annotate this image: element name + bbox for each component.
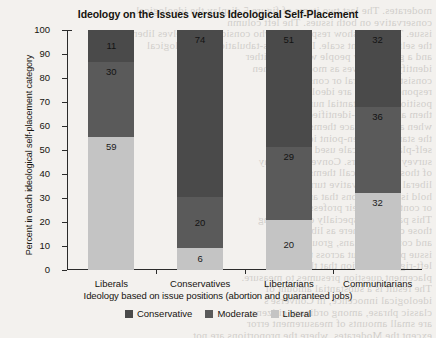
x-axis-category-label: Communitarians — [318, 278, 436, 289]
plot-area: 0102030405060708090100 113059Liberals742… — [67, 30, 422, 270]
y-axis-tick-label: 80 — [16, 72, 50, 83]
legend-swatch-icon — [125, 310, 133, 318]
bar-segment-value: 6 — [197, 254, 202, 264]
y-axis-tick — [62, 174, 67, 175]
legend-label: Conservative — [137, 309, 192, 319]
bar-segment-value: 29 — [284, 152, 295, 162]
x-axis-tick — [156, 270, 157, 274]
bar-segment-value: 51 — [284, 35, 295, 45]
y-axis-tick-label: 90 — [16, 48, 50, 59]
bar-segment[interactable]: 20 — [266, 220, 312, 270]
bar-segment-value: 74 — [195, 35, 206, 45]
y-axis-tick-label: 0 — [16, 264, 50, 275]
bar-segment-value: 36 — [372, 112, 383, 122]
y-axis-line — [67, 30, 68, 270]
legend-item[interactable]: Conservative — [125, 309, 192, 319]
bar-segment[interactable]: 29 — [266, 147, 312, 220]
x-axis-tick — [333, 270, 334, 274]
y-axis-tick-label: 20 — [16, 216, 50, 227]
y-axis-tick — [62, 78, 67, 79]
x-axis-label: Ideology based on issue positions (abort… — [0, 290, 436, 301]
bar-group: 113059Liberals — [88, 30, 134, 270]
bar-segment-value: 59 — [106, 142, 117, 152]
bar-group: 512920Libertarians — [266, 30, 312, 270]
legend-item[interactable]: Moderate — [205, 309, 257, 319]
bar-group: 323632Communitarians — [355, 30, 401, 270]
x-axis-tick — [245, 270, 246, 274]
bar-segment[interactable]: 32 — [355, 193, 401, 270]
legend-label: Liberal — [283, 309, 312, 319]
y-axis-tick-label: 40 — [16, 168, 50, 179]
chart-title: Ideology on the Issues versus Ideologica… — [0, 8, 436, 20]
y-axis-tick — [62, 102, 67, 103]
bar-segment[interactable]: 36 — [355, 107, 401, 192]
legend-label: Moderate — [217, 309, 257, 319]
y-axis-tick-label: 60 — [16, 120, 50, 131]
bar-segment[interactable]: 30 — [88, 62, 134, 137]
bar-segment-value: 32 — [372, 198, 383, 208]
y-axis-tick-label: 30 — [16, 192, 50, 203]
y-axis-tick — [62, 150, 67, 151]
y-axis-tick-label: 10 — [16, 240, 50, 251]
bar-segment[interactable]: 20 — [177, 197, 223, 248]
bar-segment[interactable]: 11 — [88, 30, 134, 62]
bar-segment[interactable]: 6 — [177, 248, 223, 270]
y-axis-tick — [62, 30, 67, 31]
bar-segment[interactable]: 51 — [266, 30, 312, 147]
stacked-bar[interactable]: 323632 — [355, 30, 401, 270]
bar-segment-value: 11 — [106, 41, 116, 51]
legend-item[interactable]: Liberal — [271, 309, 312, 319]
y-axis-tick — [62, 54, 67, 55]
bar-segment[interactable]: 59 — [88, 137, 134, 270]
legend-swatch-icon — [205, 310, 213, 318]
bar-segment[interactable]: 74 — [177, 30, 223, 197]
chart-legend: ConservativeModerateLiberal — [0, 309, 436, 319]
bar-segment-value: 30 — [106, 67, 117, 77]
y-axis-tick — [62, 198, 67, 199]
bar-segment[interactable]: 32 — [355, 30, 401, 107]
y-axis-tick — [62, 270, 67, 271]
y-axis-tick-label: 70 — [16, 96, 50, 107]
y-axis-tick — [62, 222, 67, 223]
y-axis-tick-label: 50 — [16, 144, 50, 155]
y-axis-tick — [62, 126, 67, 127]
y-axis-cap-top — [67, 30, 72, 31]
bar-segment-value: 32 — [372, 35, 383, 45]
bar-segment-value: 20 — [284, 240, 295, 250]
stacked-bar[interactable]: 74206 — [177, 30, 223, 270]
legend-swatch-icon — [271, 310, 279, 318]
stacked-bar[interactable]: 113059 — [88, 30, 134, 270]
chart-container: Ideology on the Issues versus Ideologica… — [0, 0, 436, 338]
bar-segment-value: 20 — [195, 218, 206, 228]
y-axis-tick — [62, 246, 67, 247]
y-axis-tick-label: 100 — [16, 24, 50, 35]
stacked-bar[interactable]: 512920 — [266, 30, 312, 270]
bar-group: 74206Conservatives — [177, 30, 223, 270]
